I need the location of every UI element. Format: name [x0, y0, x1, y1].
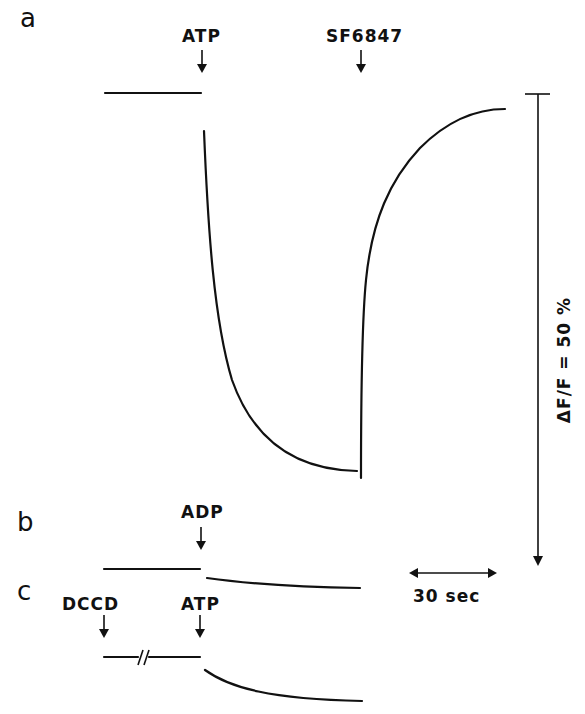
trace-a-decay — [204, 131, 357, 471]
vertical-scale-label: ΔF/F = 50 % — [554, 297, 574, 423]
horizontal-scale-label: 30 sec — [413, 586, 480, 606]
trace-b — [104, 569, 360, 588]
axis-break-icon — [138, 650, 149, 665]
panel-label-b: b — [17, 507, 34, 537]
dccd-label: DCCD — [62, 594, 119, 614]
trace-a — [105, 93, 505, 478]
atp-label-a: ATP — [182, 26, 221, 46]
panel-label-c: c — [17, 576, 31, 606]
atp-arrow-icon-a — [197, 50, 207, 73]
atp-arrow-icon-c — [195, 615, 205, 638]
figure: a b c ATP SF6847 ΔF/F = 50 % ADP 30 se — [0, 0, 585, 714]
trace-a-recovery — [361, 109, 505, 478]
panel-label-a: a — [20, 3, 36, 33]
vertical-scale-bar — [525, 94, 550, 566]
horizontal-scale-bar — [409, 568, 497, 578]
adp-arrow-icon — [196, 527, 206, 550]
adp-label: ADP — [181, 502, 224, 522]
sf6847-arrow-icon — [356, 50, 366, 73]
trace-c — [104, 650, 362, 701]
trace-c-decay — [205, 670, 362, 701]
trace-b-decay — [207, 578, 360, 588]
atp-label-c: ATP — [181, 594, 220, 614]
sf6847-label: SF6847 — [326, 26, 403, 46]
dccd-arrow-icon — [99, 615, 109, 638]
